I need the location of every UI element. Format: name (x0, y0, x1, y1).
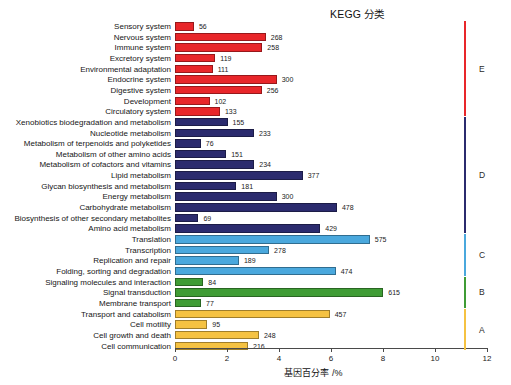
bar[interactable] (175, 267, 336, 276)
x-tick-label: 0 (173, 354, 177, 363)
bar[interactable] (175, 139, 201, 148)
bar[interactable] (175, 288, 383, 297)
kegg-classification-chart: KEGG 分类 Sensory system56Nervous system26… (0, 0, 511, 385)
bar[interactable] (175, 246, 269, 255)
group-letter-c: C (479, 250, 485, 260)
x-tick (331, 348, 332, 352)
bar[interactable] (175, 310, 330, 319)
bar[interactable] (175, 214, 198, 223)
bar[interactable] (175, 129, 254, 138)
x-tick-label: 4 (277, 354, 281, 363)
bar-value-label: 216 (253, 340, 265, 353)
bar[interactable] (175, 150, 226, 159)
bar[interactable] (175, 182, 236, 191)
bar[interactable] (175, 224, 320, 233)
x-tick (227, 348, 228, 352)
bar[interactable] (175, 320, 207, 329)
x-axis-title: 基因百分率 /% (0, 366, 511, 379)
bar[interactable] (175, 54, 215, 63)
x-tick (435, 348, 436, 352)
group-letter-e: E (479, 64, 485, 74)
bar[interactable] (175, 331, 259, 340)
group-letter-b: B (479, 287, 485, 297)
category-label: Cell communication (101, 340, 171, 353)
bar[interactable] (175, 43, 262, 52)
x-tick (383, 348, 384, 352)
bar[interactable] (175, 160, 254, 169)
group-letter-a: A (479, 325, 485, 335)
group-bracket-c (464, 234, 466, 276)
bar[interactable] (175, 33, 266, 42)
x-axis-title-text: 基因百分率 /% (284, 368, 342, 378)
x-tick-label: 12 (483, 354, 492, 363)
group-letter-d: D (479, 170, 485, 180)
x-tick-label: 10 (431, 354, 440, 363)
bar[interactable] (175, 203, 337, 212)
bar[interactable] (175, 299, 201, 308)
bar[interactable] (175, 22, 194, 31)
bar[interactable] (175, 118, 228, 127)
group-bracket-d (464, 117, 466, 234)
bar[interactable] (175, 65, 213, 74)
bar[interactable] (175, 235, 370, 244)
group-bracket-b (464, 277, 466, 308)
bar[interactable] (175, 192, 277, 201)
x-tick (279, 348, 280, 352)
bar[interactable] (175, 75, 277, 84)
plot-area: Sensory system56Nervous system268Immune … (0, 18, 511, 348)
group-bracket-a (464, 309, 466, 351)
bar[interactable] (175, 171, 303, 180)
x-tick (487, 348, 488, 352)
x-tick (175, 348, 176, 352)
group-bracket-e (464, 21, 466, 116)
bar[interactable] (175, 278, 203, 287)
x-tick-label: 6 (329, 354, 333, 363)
x-tick-label: 8 (381, 354, 385, 363)
bar[interactable] (175, 86, 262, 95)
bar[interactable] (175, 107, 220, 116)
bar[interactable] (175, 256, 239, 265)
bar[interactable] (175, 97, 210, 106)
x-tick-label: 2 (225, 354, 229, 363)
